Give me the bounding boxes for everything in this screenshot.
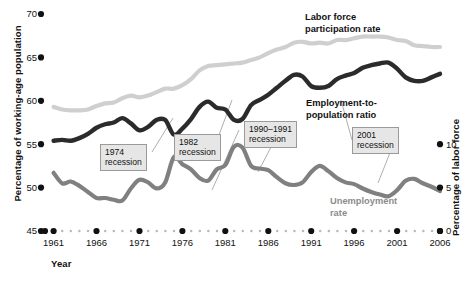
series-label-labor-force-participation-rate: Labor force participation rate <box>305 12 380 35</box>
annotation-recession-1974: 1974 recession <box>100 144 147 171</box>
series-label-unemployment-rate: Unemployment rate <box>330 196 397 219</box>
x-axis-title: Year <box>51 258 71 269</box>
svg-text:1991: 1991 <box>301 237 322 248</box>
svg-text:65: 65 <box>26 52 37 63</box>
svg-text:55: 55 <box>26 139 37 150</box>
svg-text:1996: 1996 <box>344 237 365 248</box>
y-axis-left-title: Percentage of working-age population <box>12 9 23 219</box>
svg-text:2006: 2006 <box>429 237 450 248</box>
svg-text:2001: 2001 <box>387 237 408 248</box>
chart-container: 4550556065700510196119661971197619811986… <box>0 0 475 282</box>
line-chart-plot: 4550556065700510196119661971197619811986… <box>0 0 475 282</box>
svg-text:70: 70 <box>26 8 37 19</box>
y-axis-right-title: Percentage of labor force <box>450 108 461 248</box>
annotation-recession-1990-1991: 1990–1991 recession <box>244 121 297 148</box>
svg-text:60: 60 <box>26 95 37 106</box>
annotation-recession-1982: 1982 recession <box>174 134 221 161</box>
svg-text:1981: 1981 <box>215 237 236 248</box>
svg-text:50: 50 <box>26 182 37 193</box>
series-label-employment-to-population-ratio: Employment-to- population ratio <box>306 98 377 121</box>
svg-text:45: 45 <box>26 225 37 236</box>
svg-text:1976: 1976 <box>172 237 193 248</box>
svg-text:1966: 1966 <box>86 237 107 248</box>
svg-text:1971: 1971 <box>129 237 150 248</box>
annotation-recession-2001: 2001 recession <box>352 127 399 154</box>
svg-text:1961: 1961 <box>43 237 64 248</box>
svg-text:1986: 1986 <box>258 237 279 248</box>
